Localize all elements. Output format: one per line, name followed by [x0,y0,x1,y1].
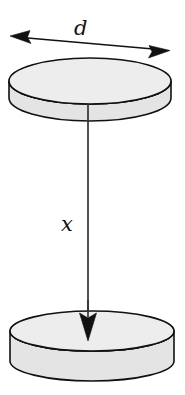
separation-arrow-group: x [61,104,97,341]
diameter-dimension-group: d [10,16,170,58]
diameter-dimension-line [22,38,159,50]
diagram-svg: d x [0,0,185,395]
top-disk-face [9,58,171,104]
separation-label: x [61,212,73,236]
figure-canvas: d x [0,0,185,395]
diameter-arrowhead-left-icon [10,31,31,44]
top-disk [9,58,171,121]
diameter-arrowhead-right-icon [149,46,171,59]
diameter-label: d [74,16,87,40]
bottom-disk [10,300,174,381]
